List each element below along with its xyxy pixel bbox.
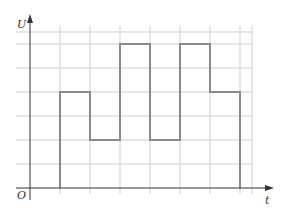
y-axis-label: U — [17, 18, 27, 31]
x-axis-label: t — [265, 194, 270, 207]
origin-label: O — [17, 189, 26, 202]
y-axis-arrow-icon — [27, 14, 33, 23]
chart: U t O — [0, 0, 285, 214]
axes — [16, 20, 268, 200]
x-axis-arrow-icon — [265, 185, 274, 191]
grid — [16, 26, 252, 194]
